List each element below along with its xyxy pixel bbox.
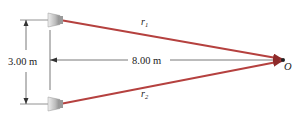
speaker-top (48, 13, 63, 27)
ray-r1 (60, 20, 282, 59)
vertical-distance-label: 3.00 m (8, 56, 37, 67)
ray-r1-label: r1 (141, 16, 148, 28)
horizontal-distance-label: 8.00 m (132, 55, 161, 66)
arrowhead-up (24, 20, 29, 26)
speaker-body (59, 16, 63, 24)
speaker-icon (48, 97, 60, 111)
speaker-icon (48, 13, 60, 27)
speaker-bottom (48, 97, 63, 111)
arrowhead-left (50, 58, 57, 63)
speaker-body (59, 100, 63, 108)
arrowhead-down (24, 98, 29, 104)
ray-r2 (60, 61, 282, 104)
horizontal-dimension: 8.00 m (50, 55, 282, 66)
ray-r2-label: r2 (141, 88, 149, 100)
diagram-canvas: 3.00 m 8.00 m r1 r2 O (0, 0, 306, 120)
vertical-dimension: 3.00 m (8, 20, 52, 104)
point-o-label: O (284, 61, 292, 72)
